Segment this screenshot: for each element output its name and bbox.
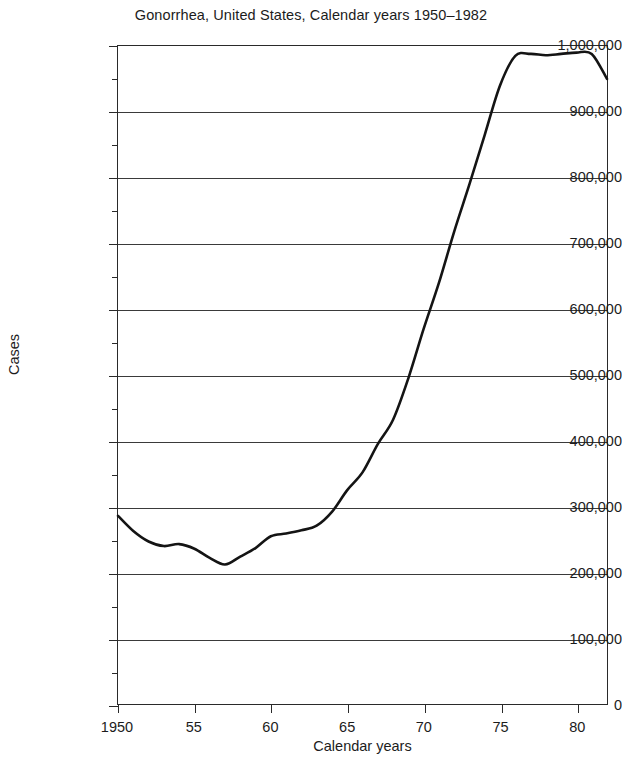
y-tick-major [109, 178, 118, 179]
y-tick-label: 600,000 [519, 301, 622, 317]
y-tick-label: 400,000 [519, 433, 622, 449]
x-axis-title: Calendar years [117, 738, 608, 754]
y-tick-minor [112, 79, 118, 80]
y-tick-major [109, 46, 118, 47]
y-tick-major [109, 442, 118, 443]
y-axis-title: Cases [6, 334, 22, 375]
y-tick-minor [112, 211, 118, 212]
y-tick-minor [112, 475, 118, 476]
x-tick-major [118, 704, 119, 713]
x-tick-major [502, 704, 503, 713]
y-tick-label: 0 [519, 697, 622, 713]
x-tick-label: 75 [493, 719, 509, 735]
x-tick-label: 55 [186, 719, 202, 735]
chart-title: Gonorrhea, United States, Calendar years… [0, 7, 622, 23]
y-tick-major [109, 376, 118, 377]
x-tick-major [271, 704, 272, 713]
y-tick-major [109, 574, 118, 575]
y-tick-major [109, 508, 118, 509]
y-tick-minor [112, 145, 118, 146]
y-tick-label: 800,000 [519, 169, 622, 185]
x-tick-major [348, 704, 349, 713]
chart-figure: Gonorrhea, United States, Calendar years… [0, 0, 622, 767]
y-tick-label: 1,000,000 [519, 37, 622, 53]
x-tick-label: 1950 [101, 719, 133, 735]
y-tick-major [109, 640, 118, 641]
x-tick-label: 60 [262, 719, 278, 735]
y-tick-major [109, 310, 118, 311]
x-tick-major [195, 704, 196, 713]
y-tick-major [109, 706, 118, 707]
x-tick-label: 80 [569, 719, 585, 735]
y-tick-label: 500,000 [519, 367, 622, 383]
x-tick-label: 65 [339, 719, 355, 735]
x-tick-major [425, 704, 426, 713]
y-tick-major [109, 244, 118, 245]
y-tick-minor [112, 607, 118, 608]
y-tick-minor [112, 343, 118, 344]
y-tick-minor [112, 541, 118, 542]
x-tick-label: 70 [416, 719, 432, 735]
y-tick-label: 300,000 [519, 499, 622, 515]
y-tick-label: 900,000 [519, 103, 622, 119]
y-tick-label: 200,000 [519, 565, 622, 581]
y-tick-minor [112, 277, 118, 278]
y-tick-label: 700,000 [519, 235, 622, 251]
y-tick-minor [112, 409, 118, 410]
y-tick-minor [112, 673, 118, 674]
y-tick-label: 100,000 [519, 631, 622, 647]
y-tick-major [109, 112, 118, 113]
